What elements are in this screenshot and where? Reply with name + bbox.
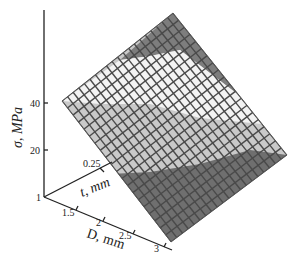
x-tick-1-5: 1.5 (62, 207, 75, 218)
z-axis-title: σ, MPa (10, 107, 25, 148)
x-tick-3: 3 (154, 243, 159, 254)
x-tick-2: 2 (96, 217, 101, 228)
origin-tick: 1 (36, 192, 41, 203)
y-tick-025: 0.25 (83, 158, 101, 169)
z-tick-40: 40 (30, 98, 40, 109)
surface-plot-3d: 40 20 1 0.25 1.5 2 2.5 3 σ, MPa t, mm D,… (0, 0, 304, 267)
y-axis-title: t, mm (78, 174, 112, 200)
z-tick-20: 20 (30, 145, 40, 156)
surface (0, 0, 304, 267)
